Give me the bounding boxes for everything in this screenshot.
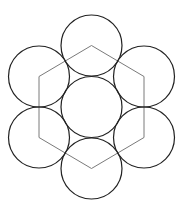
hexagon-outline [39, 46, 144, 169]
circle-center [61, 77, 122, 138]
circle-group [9, 15, 175, 199]
hexagonal-circle-diagram [0, 0, 185, 206]
